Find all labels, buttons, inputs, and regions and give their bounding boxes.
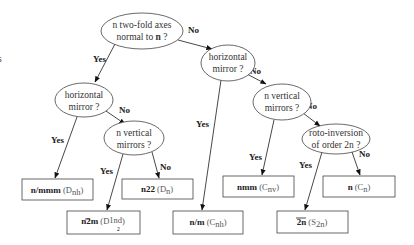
label-yes: Yes xyxy=(196,119,209,129)
edge-hmright-yes xyxy=(202,80,221,210)
clipped-text-fragment: s xyxy=(0,54,2,64)
label-yes: Yes xyxy=(249,152,262,162)
label-yes: Yes xyxy=(93,54,106,64)
label-no: No xyxy=(359,149,370,159)
decision-tree-diagram: s Yes No Yes No Yes No Yes No Yes No Yes… xyxy=(0,0,414,245)
label-yes: Yes xyxy=(100,166,113,176)
label-yes: Yes xyxy=(51,135,64,145)
svg-text:mirror ?: mirror ? xyxy=(69,102,100,112)
result-nbar-2m: n2m (D1nd) 2 xyxy=(67,211,140,234)
node-horizontal-mirror-right: horizontal mirror ? xyxy=(201,45,255,81)
result-n-m: n/m (Cnh) xyxy=(173,211,243,234)
svg-text:n vertical: n vertical xyxy=(116,128,152,138)
svg-text:normal to n ?: normal to n ? xyxy=(117,32,168,42)
svg-text:n vertical: n vertical xyxy=(264,91,300,101)
label-no: No xyxy=(188,25,199,35)
label-yes: Yes xyxy=(299,160,312,170)
label-no: No xyxy=(119,105,130,115)
svg-text:roto-inversion: roto-inversion xyxy=(309,128,363,138)
result-2n-bar: 2n (S2n) xyxy=(277,211,348,233)
label-no: No xyxy=(160,162,171,172)
node-roto-inversion: roto-inversion of order 2n ? xyxy=(302,124,370,154)
edge-root-no xyxy=(178,40,212,49)
svg-text:horizontal: horizontal xyxy=(209,52,248,62)
node-root: n two-fold axes normal to n ? xyxy=(101,13,183,49)
node-vertical-mirrors-right: n vertical mirrors ? xyxy=(253,84,311,120)
edge-vmright-no xyxy=(303,113,320,126)
result-n: n (Cn) xyxy=(323,176,395,197)
edge-vmleft-yes xyxy=(107,154,123,210)
result-n22: n22 (Dn) xyxy=(122,179,193,199)
svg-text:2: 2 xyxy=(117,226,120,232)
edge-vmright-yes xyxy=(262,120,274,175)
svg-text:horizontal: horizontal xyxy=(65,90,104,100)
result-n-mmm: n/mmm (Dnh) xyxy=(22,179,93,200)
edge-hmleft-yes xyxy=(55,117,77,178)
node-horizontal-mirror-left: horizontal mirror ? xyxy=(55,83,113,117)
svg-text:mirror ?: mirror ? xyxy=(213,64,244,74)
result-nmm: nmm (Cnv) xyxy=(223,176,294,197)
svg-text:n2m (D1nd): n2m (D1nd) xyxy=(81,215,125,226)
svg-text:mirrors ?: mirrors ? xyxy=(265,103,300,113)
svg-text:mirrors ?: mirrors ? xyxy=(117,140,152,150)
svg-text:of order 2n ?: of order 2n ? xyxy=(312,140,361,150)
edge-vmleft-no xyxy=(152,152,159,178)
node-vertical-mirrors-left: n vertical mirrors ? xyxy=(104,121,164,155)
svg-text:n two-fold axes: n two-fold axes xyxy=(112,20,171,30)
